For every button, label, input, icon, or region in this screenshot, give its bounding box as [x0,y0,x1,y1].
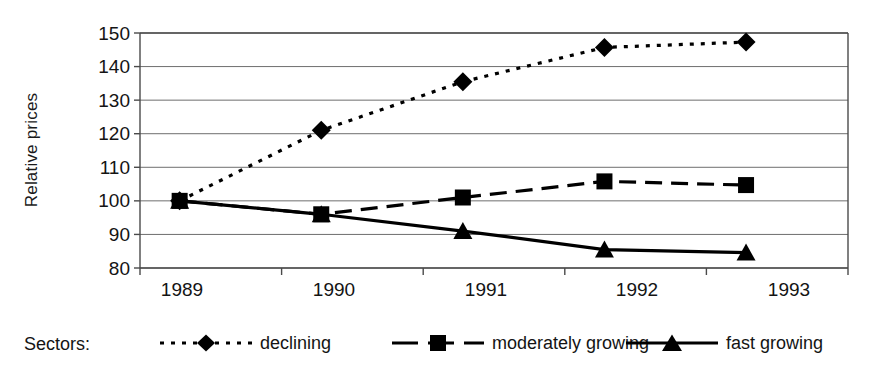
triangle-marker-icon [624,332,720,354]
x-tick-1989: 1989 [122,279,242,301]
legend: Sectors: declining moderately growing [0,328,869,368]
diamond-marker-icon [158,332,254,354]
square-marker-icon [390,332,486,354]
x-tick-1992: 1992 [577,279,697,301]
legend-label-fast-growing: fast growing [726,333,823,354]
series-moderately-growing [172,173,754,222]
series-declining [170,33,755,211]
axis-lines [134,33,848,268]
legend-item-fast-growing: fast growing [624,332,823,354]
x-tick-1993: 1993 [729,279,849,301]
legend-item-declining: declining [158,332,331,354]
line-chart: Relative prices 150 140 130 120 110 100 … [0,0,869,380]
legend-label-declining: declining [260,333,331,354]
x-axis-ticks [140,268,848,275]
gridlines [140,33,848,268]
x-tick-1990: 1990 [274,279,394,301]
plot-area [0,0,869,380]
legend-item-moderately-growing: moderately growing [390,332,649,354]
x-tick-1991: 1991 [426,279,546,301]
legend-caption: Sectors: [24,334,90,355]
